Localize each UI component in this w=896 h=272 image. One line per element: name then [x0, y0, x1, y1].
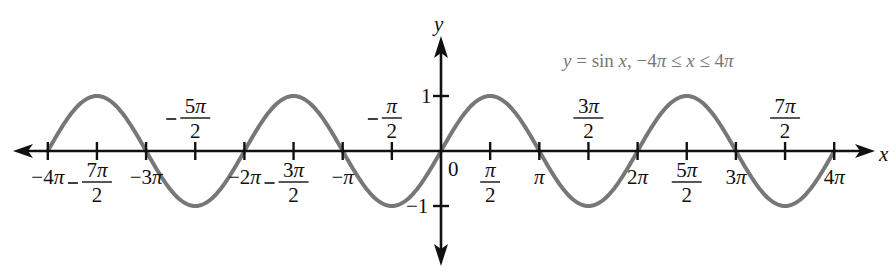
svg-text:π: π [485, 158, 496, 182]
y-axis-label: y [432, 12, 444, 36]
svg-text:2: 2 [288, 183, 299, 207]
svg-text:−2π: −2π [228, 165, 261, 189]
y-tick-label-1: 1 [421, 84, 432, 108]
svg-text:3π: 3π [725, 165, 747, 189]
svg-text:2: 2 [682, 183, 693, 207]
x-tick-label: −3π [130, 165, 163, 189]
chart-title: y = sin x, −4π ≤ x ≤ 4π [561, 50, 734, 71]
x-axis-label: x [878, 142, 889, 166]
svg-text:2: 2 [190, 119, 201, 143]
y-tick-label-neg1: −1 [406, 194, 428, 218]
svg-text:π: π [534, 165, 545, 189]
x-tick-label: 4π [824, 165, 846, 189]
svg-text:2: 2 [92, 183, 103, 207]
svg-text:−π: −π [331, 165, 354, 189]
svg-text:3π: 3π [578, 94, 600, 118]
svg-text:2: 2 [387, 119, 398, 143]
x-tick-label: 5π2 [166, 94, 210, 143]
x-tick-label: 7π2 [68, 158, 112, 207]
svg-text:7π: 7π [775, 94, 797, 118]
svg-text:3π: 3π [283, 158, 305, 182]
svg-text:2: 2 [583, 119, 594, 143]
svg-text:2: 2 [485, 183, 496, 207]
x-tick-label: −2π [228, 165, 261, 189]
svg-text:2: 2 [780, 119, 791, 143]
y-axis: y 1 −1 0 [406, 12, 459, 266]
x-tick-label: 3π2 [573, 94, 603, 143]
svg-text:−4π: −4π [31, 165, 64, 189]
sine-graph: x y 1 −1 0 −4π7π2−3π5π2−2π3π2−ππ2π2π3π22… [0, 0, 896, 272]
svg-text:−3π: −3π [130, 165, 163, 189]
x-tick-label: 7π2 [770, 94, 800, 143]
x-tick-label: −4π [31, 165, 64, 189]
svg-text:2π: 2π [627, 165, 649, 189]
svg-text:π: π [387, 94, 398, 118]
x-tick-label: 2π [627, 165, 649, 189]
x-tick-label: π [534, 165, 545, 189]
x-tick-label: 3π2 [265, 158, 309, 207]
origin-label: 0 [448, 157, 459, 181]
x-tick-label: −π [331, 165, 354, 189]
x-tick-label: π2 [368, 94, 402, 143]
x-tick-label: 3π [725, 165, 747, 189]
svg-text:7π: 7π [86, 158, 108, 182]
x-tick-label: 5π2 [672, 158, 702, 207]
svg-text:5π: 5π [185, 94, 207, 118]
svg-text:5π: 5π [676, 158, 698, 182]
svg-text:4π: 4π [824, 165, 846, 189]
x-tick-label: π2 [480, 158, 500, 207]
